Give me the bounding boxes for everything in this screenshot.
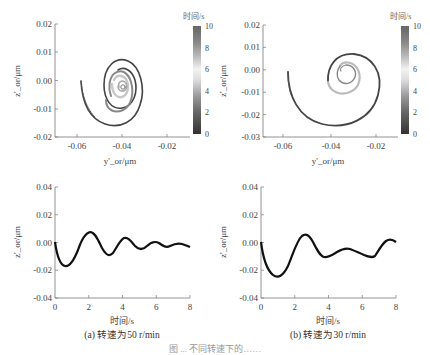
plot-top-left: 0.02 0.01 0.00 -0.01 -0.02 -0.06 -0.04 -… xyxy=(12,11,213,166)
line-series xyxy=(261,235,396,277)
y-tick: 0.04 xyxy=(242,182,258,192)
cbar-tick: 0 xyxy=(205,130,209,139)
y-tick: -0.01 xyxy=(241,87,260,97)
cbar-tick: 0 xyxy=(413,130,417,139)
x-tick: 0 xyxy=(259,302,264,312)
spiral-trajectory xyxy=(288,54,380,126)
figure-caption: 图 ... 不同转速下的…… xyxy=(169,343,261,354)
y-tick: -0.02 xyxy=(33,132,52,142)
x-axis-label: y'_or/μm xyxy=(312,156,344,166)
subplot-caption-b: (b) 转速为30 r/min xyxy=(290,329,366,341)
plot-top-right: 0.02 0.01 0.00 -0.01 -0.02 -0.03 -0.06 -… xyxy=(218,11,421,166)
colorbar xyxy=(193,26,201,134)
x-tick: -0.06 xyxy=(68,141,87,151)
y-tick: 0.00 xyxy=(36,238,52,248)
cbar-tick: 2 xyxy=(413,108,417,117)
x-tick: 8 xyxy=(394,302,399,312)
x-tick: 6 xyxy=(360,302,365,312)
x-axis-label: 时间/s xyxy=(110,315,135,326)
colorbar-title: 时间/s xyxy=(390,11,411,21)
y-tick: -0.02 xyxy=(241,110,260,120)
colorbar-title: 时间/s xyxy=(183,11,204,21)
x-axis-label: y'_or/μm xyxy=(104,156,136,166)
cbar-tick: 8 xyxy=(413,44,417,53)
y-tick: -0.01 xyxy=(33,104,52,114)
cbar-tick: 4 xyxy=(205,87,209,96)
figure: 0.02 0.01 0.00 -0.01 -0.02 -0.06 -0.04 -… xyxy=(0,0,430,355)
cbar-tick: 6 xyxy=(413,65,417,74)
cbar-tick: 8 xyxy=(205,44,209,53)
y-tick: 0.00 xyxy=(242,238,258,248)
y-axis-label: z'_or/μm xyxy=(12,65,22,97)
y-tick: -0.02 xyxy=(33,265,52,275)
y-axis-label: z'_or/μm xyxy=(218,226,228,258)
cbar-tick: 2 xyxy=(205,108,209,117)
x-tick: -0.06 xyxy=(274,141,293,151)
y-tick: 0.02 xyxy=(242,210,258,220)
x-tick: -0.04 xyxy=(322,141,341,151)
x-tick: 2 xyxy=(293,302,298,312)
y-tick: 0.02 xyxy=(244,20,260,30)
y-tick: 0.00 xyxy=(36,76,52,86)
y-tick: -0.02 xyxy=(239,265,258,275)
y-axis-label: z'_or/μm xyxy=(12,226,22,258)
x-tick: -0.02 xyxy=(367,141,386,151)
y-tick: -0.03 xyxy=(241,132,260,142)
x-tick: 8 xyxy=(188,302,193,312)
x-tick: 4 xyxy=(120,302,125,312)
cbar-tick: 6 xyxy=(205,65,209,74)
cbar-tick: 10 xyxy=(413,22,421,31)
plot-bottom-right: 0.04 0.02 0.00 -0.02 -0.04 0 2 4 6 8 时间/… xyxy=(218,182,399,341)
subplot-caption-a: (a) 转速为50 r/min xyxy=(84,329,160,341)
x-tick: 6 xyxy=(154,302,159,312)
spiral-trajectory xyxy=(81,60,142,126)
y-tick: 0.02 xyxy=(36,19,52,29)
x-tick: -0.02 xyxy=(158,141,177,151)
y-tick: 0.00 xyxy=(244,65,260,75)
y-tick: 0.01 xyxy=(36,47,52,57)
plot-bottom-left: 0.04 0.02 0.00 -0.02 -0.04 0 2 4 6 8 时间/… xyxy=(12,182,193,341)
x-tick: 4 xyxy=(326,302,331,312)
cbar-tick: 10 xyxy=(205,22,213,31)
x-tick: 2 xyxy=(87,302,92,312)
y-tick: 0.01 xyxy=(244,42,260,52)
cbar-tick: 4 xyxy=(413,87,417,96)
x-tick: 0 xyxy=(53,302,58,312)
y-tick: 0.02 xyxy=(36,210,52,220)
y-tick: 0.04 xyxy=(36,182,52,192)
x-tick: -0.04 xyxy=(113,141,132,151)
y-axis-label: z'_or/μm xyxy=(218,65,228,97)
y-tick: -0.04 xyxy=(239,293,258,303)
colorbar xyxy=(401,26,409,134)
line-series xyxy=(55,232,190,266)
y-tick: -0.04 xyxy=(33,293,52,303)
x-axis-label: 时间/s xyxy=(316,315,341,326)
